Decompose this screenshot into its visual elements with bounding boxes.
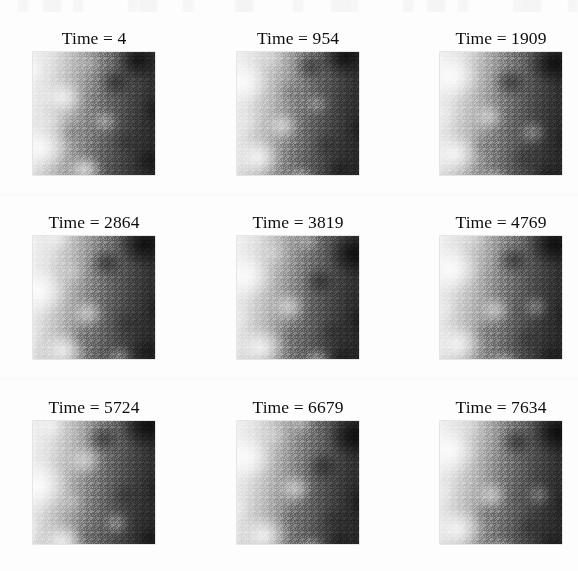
panel-cell-4: Time = 2864 <box>12 212 176 359</box>
panel-image-6 <box>440 236 562 359</box>
panel-title-7: Time = 5724 <box>12 397 176 417</box>
panel-title-1: Time = 4 <box>12 28 176 48</box>
panel-title-4: Time = 2864 <box>12 212 176 232</box>
panel-cell-7: Time = 5724 <box>12 397 176 544</box>
field-vignette-2 <box>237 52 359 175</box>
field-vignette-9 <box>440 421 562 544</box>
field-vignette-1 <box>33 52 155 175</box>
panel-cell-8: Time = 6679 <box>216 397 380 544</box>
field-vignette-8 <box>237 421 359 544</box>
panel-title-2: Time = 954 <box>216 28 380 48</box>
panel-image-5 <box>237 236 359 359</box>
panel-image-2 <box>237 52 359 175</box>
panel-title-8: Time = 6679 <box>216 397 380 417</box>
panel-title-3: Time = 1909 <box>419 28 578 48</box>
figure-grid: Time = 4 Time = 954 Time = 1909 <box>0 0 578 571</box>
panel-image-1 <box>33 52 155 175</box>
panel-cell-6: Time = 4769 <box>419 212 578 359</box>
panel-cell-2: Time = 954 <box>216 28 380 175</box>
field-vignette-6 <box>440 236 562 359</box>
panel-image-4 <box>33 236 155 359</box>
panel-image-9 <box>440 421 562 544</box>
panel-image-3 <box>440 52 562 175</box>
panel-cell-3: Time = 1909 <box>419 28 578 175</box>
panel-image-7 <box>33 421 155 544</box>
field-vignette-3 <box>440 52 562 175</box>
panel-title-6: Time = 4769 <box>419 212 578 232</box>
panel-cell-1: Time = 4 <box>12 28 176 175</box>
panel-cell-9: Time = 7634 <box>419 397 578 544</box>
panel-image-8 <box>237 421 359 544</box>
field-vignette-7 <box>33 421 155 544</box>
panel-title-5: Time = 3819 <box>216 212 380 232</box>
field-vignette-5 <box>237 236 359 359</box>
field-vignette-4 <box>33 236 155 359</box>
panel-title-9: Time = 7634 <box>419 397 578 417</box>
panel-cell-5: Time = 3819 <box>216 212 380 359</box>
